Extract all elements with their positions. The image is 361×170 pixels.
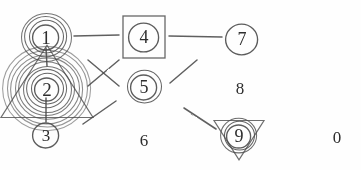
numeral-label-9[interactable]: 9 [235, 127, 244, 145]
numeral-label-2[interactable]: 2 [42, 80, 52, 99]
numeral-label-1[interactable]: 1 [41, 28, 51, 47]
edge-edge-5-9 [184, 108, 216, 129]
edge-edge-5-7 [170, 60, 197, 83]
numeral-label-6[interactable]: 6 [140, 132, 149, 149]
edge-edge-4-7 [169, 36, 222, 37]
numeral-label-0[interactable]: 0 [333, 129, 342, 146]
numeral-label-3[interactable]: 3 [42, 127, 51, 144]
numeral-label-7[interactable]: 7 [238, 30, 247, 48]
sketch-layer [0, 0, 361, 170]
numeral-label-4[interactable]: 4 [140, 28, 149, 46]
numeral-label-8[interactable]: 8 [236, 80, 245, 97]
numeral-label-5[interactable]: 5 [140, 78, 149, 96]
edge-edge-1-4 [74, 35, 119, 36]
diagram-canvas: 1234567890 [0, 0, 361, 170]
